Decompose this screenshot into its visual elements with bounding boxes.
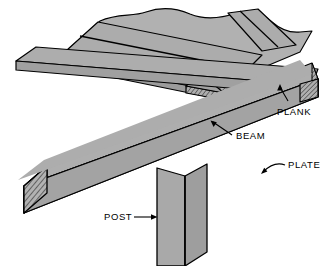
framing-diagram: PLANK BEAM PLATE POST (0, 0, 332, 266)
post-label: POST (104, 211, 132, 222)
plank-label: PLANK (277, 106, 311, 117)
diagram-canvas: PLANK BEAM PLATE POST (0, 0, 332, 266)
plate-label: PLATE (288, 159, 320, 170)
post-left-face (157, 168, 185, 266)
post-right-face (185, 164, 207, 266)
beam-label: BEAM (236, 130, 265, 141)
post-group (157, 164, 207, 266)
